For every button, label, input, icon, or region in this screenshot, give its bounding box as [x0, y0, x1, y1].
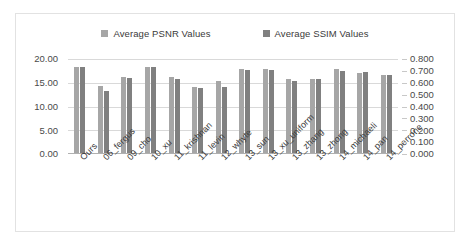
bar-ssim[interactable] [175, 79, 180, 153]
legend-entry-psnr[interactable]: Average PSNR Values [101, 28, 210, 39]
left-value-axis: 20.0015.0010.005.000.00 [16, 59, 64, 154]
right-axis-tickmark [402, 83, 407, 84]
bar-ssim[interactable] [292, 81, 297, 153]
bar-psnr[interactable] [98, 86, 103, 153]
right-axis-tickmark [402, 154, 407, 155]
right-axis-tickmark [402, 71, 407, 72]
bar-psnr[interactable] [74, 67, 79, 153]
bar-ssim[interactable] [222, 87, 227, 153]
bar-ssim[interactable] [198, 88, 203, 153]
bar-ssim[interactable] [80, 67, 85, 153]
right-axis-tickmark [402, 142, 407, 143]
chart-legend: Average PSNR Values Average SSIM Values [16, 28, 454, 39]
legend-label-ssim: Average SSIM Values [275, 28, 369, 39]
bar-group[interactable] [68, 59, 92, 153]
legend-swatch-ssim [263, 30, 270, 37]
right-axis-tickmark [402, 118, 407, 119]
right-axis-tickmark [402, 107, 407, 108]
bar-group[interactable] [92, 59, 116, 153]
right-axis-tickmark [402, 95, 407, 96]
legend-swatch-psnr [101, 30, 108, 37]
right-axis-tickmark [402, 59, 407, 60]
legend-entry-ssim[interactable]: Average SSIM Values [263, 28, 369, 39]
category-axis-labels: Ours06_fergus09_cho10_xu11_krishnan11_le… [68, 155, 398, 245]
chart-container: Average PSNR Values Average SSIM Values … [15, 13, 455, 232]
legend-label-psnr: Average PSNR Values [113, 28, 210, 39]
bar-ssim[interactable] [104, 91, 109, 154]
right-axis-tickmark [402, 130, 407, 131]
